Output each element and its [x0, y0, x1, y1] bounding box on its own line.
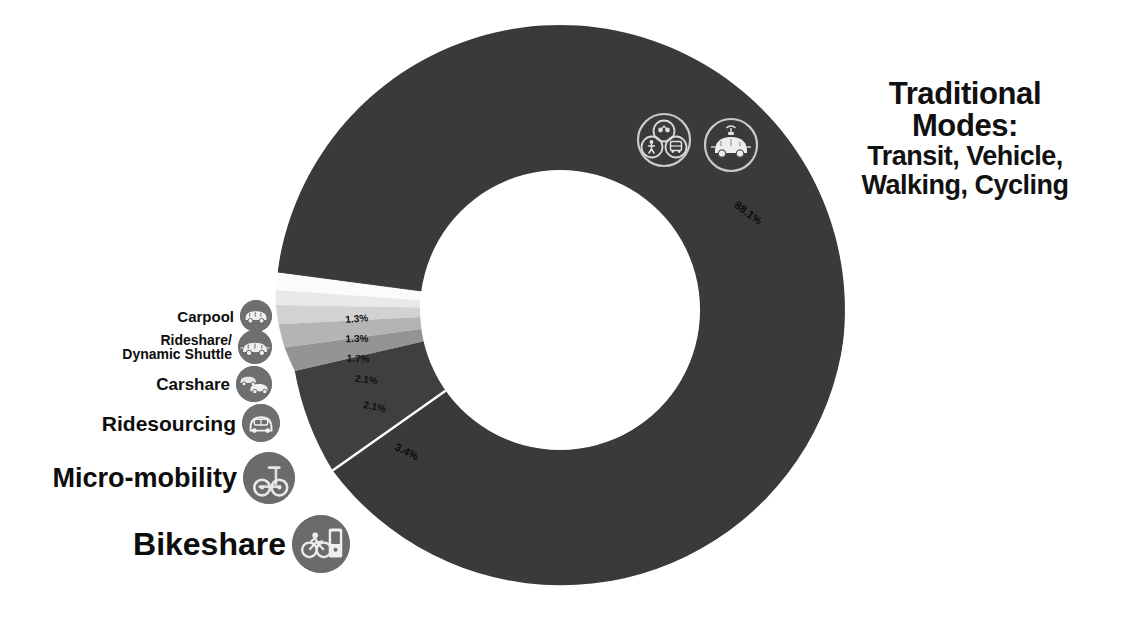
- slice-label-carshare: 1.7%: [347, 353, 370, 365]
- legend-label-ridesourcing: Ridesourcing: [102, 413, 236, 434]
- title-line-2: Modes:: [800, 110, 1130, 142]
- legend-label-bikeshare: Bikeshare: [133, 528, 286, 560]
- legend-item-bikeshare[interactable]: Bikeshare: [110, 515, 350, 573]
- legend-item-micromobility[interactable]: Micro-mobility: [10, 452, 295, 504]
- legend-label-rideshare: Rideshare/ Dynamic Shuttle: [122, 333, 232, 361]
- slice-label-carpool: 1.3%: [345, 312, 369, 325]
- legend-label-carpool: Carpool: [177, 309, 234, 324]
- legend-item-ridesourcing[interactable]: Ridesourcing: [30, 404, 280, 442]
- carpool-van-icon: [240, 300, 272, 332]
- slice-label-rideshare: 1.3%: [345, 333, 368, 344]
- rideshare-shuttle-icon: [238, 330, 272, 364]
- donut-chart: 88.1% 1.3% 1.3% 1.7% 2.1% 2.1% 3.4% Trad…: [0, 0, 1138, 618]
- title-line-1: Traditional: [800, 78, 1130, 110]
- carshare-cars-icon: [236, 366, 272, 402]
- ring-slices: [275, 15, 846, 585]
- micromobility-scooter-icon: [243, 452, 295, 504]
- ridesourcing-car-icon: [242, 404, 280, 442]
- title-line-4: Walking, Cycling: [800, 171, 1130, 199]
- legend-item-carshare[interactable]: Carshare: [40, 366, 272, 402]
- bikeshare-dock-icon: [292, 515, 350, 573]
- traditional-modes-title: Traditional Modes: Transit, Vehicle, Wal…: [800, 78, 1130, 199]
- legend-item-rideshare[interactable]: Rideshare/ Dynamic Shuttle: [10, 330, 272, 364]
- legend-label-carshare: Carshare: [156, 376, 230, 393]
- legend-label-rideshare-line2: Dynamic Shuttle: [122, 346, 232, 362]
- legend-item-carpool[interactable]: Carpool: [40, 300, 272, 332]
- title-line-3: Transit, Vehicle,: [800, 142, 1130, 170]
- legend-label-micromobility: Micro-mobility: [52, 465, 237, 492]
